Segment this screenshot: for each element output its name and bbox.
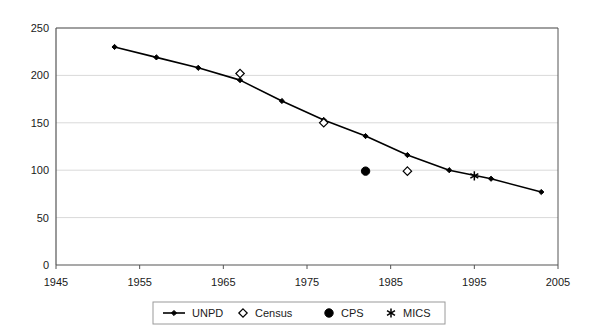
y-tick-label-200: 200 (31, 69, 49, 81)
x-tick-label-2005: 2005 (546, 276, 570, 288)
legend-label-unpd: UNPD (192, 307, 223, 319)
x-tick-label-1995: 1995 (462, 276, 486, 288)
series-cps-point-0-marker-circle (361, 167, 369, 175)
legend-label-cps: CPS (341, 307, 364, 319)
plot-background (56, 28, 558, 265)
x-tick-label-1955: 1955 (127, 276, 151, 288)
y-tick-label-50: 50 (37, 212, 49, 224)
x-tick-label-1945: 1945 (44, 276, 68, 288)
legend-cps-marker-circle (325, 309, 333, 317)
chart-legend: UNPDCensusCPSMICS (153, 302, 445, 324)
legend-label-census: Census (255, 307, 293, 319)
y-tick-label-0: 0 (43, 259, 49, 271)
y-axis-tick-labels: 050100150200250 (31, 22, 49, 271)
y-tick-label-100: 100 (31, 164, 49, 176)
line-chart: 050100150200250 194519551965197519851995… (0, 0, 594, 333)
chart-container: 050100150200250 194519551965197519851995… (0, 0, 594, 333)
y-tick-label-150: 150 (31, 117, 49, 129)
x-tick-label-1975: 1975 (295, 276, 319, 288)
series-cps (361, 167, 369, 175)
legend-label-mics: MICS (403, 307, 431, 319)
x-tick-label-1965: 1965 (211, 276, 235, 288)
legend-item-cps[interactable]: CPS (325, 307, 364, 319)
x-tick-label-1985: 1985 (378, 276, 402, 288)
x-axis-tick-labels: 1945195519651975198519952005 (44, 276, 570, 288)
y-tick-label-250: 250 (31, 22, 49, 34)
